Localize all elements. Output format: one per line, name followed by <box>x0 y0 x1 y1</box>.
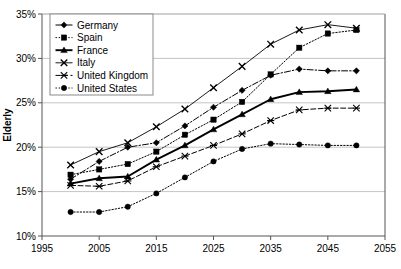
data-point-spain-2035 <box>268 72 273 77</box>
data-point-spain-2045 <box>325 31 330 36</box>
data-point-united-kingdom-2045 <box>324 105 331 111</box>
legend-label-spain: Spain <box>77 32 103 43</box>
data-point-united-states-2000 <box>68 209 73 214</box>
data-point-spain-2000 <box>68 172 73 177</box>
data-point-united-states-2030 <box>239 146 244 151</box>
data-point-united-states-2035 <box>268 141 273 146</box>
data-point-united-kingdom-2030 <box>238 131 245 137</box>
elderly-population-projection-chart: 10%15%20%25%30%35%1995200520152025203520… <box>0 0 401 269</box>
data-point-united-states-2045 <box>325 143 330 148</box>
data-point-italy-2035 <box>267 41 274 48</box>
data-point-united-kingdom-2015 <box>153 164 160 170</box>
data-point-germany-2025 <box>210 104 216 110</box>
data-point-spain-2020 <box>182 132 187 137</box>
data-point-united-kingdom-2040 <box>296 107 303 113</box>
data-point-germany-2045 <box>325 68 331 74</box>
x-tick-label-2025: 2025 <box>202 243 225 254</box>
data-point-spain-2010 <box>125 161 130 166</box>
y-tick-label-30: 30% <box>16 53 36 64</box>
data-point-united-kingdom-2035 <box>267 117 274 123</box>
data-point-united-states-2050 <box>354 143 359 148</box>
x-tick-label-2035: 2035 <box>260 243 283 254</box>
data-point-italy-2020 <box>182 106 189 113</box>
legend-label-france: France <box>77 45 109 56</box>
data-point-spain-2005 <box>96 167 101 172</box>
y-tick-label-35: 35% <box>16 9 36 20</box>
data-point-spain-2025 <box>211 117 216 122</box>
data-point-germany-2020 <box>182 123 188 129</box>
y-tick-label-25: 25% <box>16 97 36 108</box>
legend-label-united-kingdom: United Kingdom <box>77 70 148 81</box>
data-point-united-states-2020 <box>182 175 187 180</box>
data-point-italy-2000 <box>67 162 74 169</box>
chart-canvas: 10%15%20%25%30%35%1995200520152025203520… <box>0 0 401 269</box>
x-tick-label-1995: 1995 <box>31 243 54 254</box>
legend-marker-spain <box>61 35 66 40</box>
x-tick-label-2045: 2045 <box>317 243 340 254</box>
data-point-italy-2005 <box>96 148 103 155</box>
y-tick-label-10: 10% <box>16 231 36 242</box>
data-point-united-kingdom-2020 <box>181 153 188 159</box>
y-tick-label-20: 20% <box>16 142 36 153</box>
data-point-united-states-2040 <box>297 142 302 147</box>
data-point-united-kingdom-2050 <box>353 105 360 111</box>
data-point-united-kingdom-2025 <box>210 142 217 148</box>
legend-label-germany: Germany <box>77 20 118 31</box>
data-point-italy-2030 <box>239 63 246 70</box>
x-tick-label-2005: 2005 <box>88 243 111 254</box>
legend-label-italy: Italy <box>77 57 95 68</box>
data-point-germany-2015 <box>153 140 159 146</box>
data-point-united-states-2015 <box>154 191 159 196</box>
data-point-germany-2050 <box>353 68 359 74</box>
data-point-spain-2030 <box>239 99 244 104</box>
data-point-spain-2015 <box>154 149 159 154</box>
data-point-united-kingdom-2005 <box>96 183 103 189</box>
y-tick-label-15: 15% <box>16 186 36 197</box>
legend-marker-united-states <box>61 85 66 90</box>
legend: GermanySpainFranceItalyUnited KingdomUni… <box>50 14 153 95</box>
y-axis-title: Elderly <box>2 108 13 142</box>
series-france <box>67 86 359 186</box>
legend-label-united-states: United States <box>77 83 137 94</box>
data-point-italy-2015 <box>153 123 160 130</box>
data-point-germany-2005 <box>96 158 102 164</box>
data-point-germany-2030 <box>239 87 245 93</box>
data-point-united-states-2025 <box>211 159 216 164</box>
data-point-united-states-2010 <box>125 204 130 209</box>
data-point-spain-2040 <box>297 45 302 50</box>
data-point-germany-2040 <box>296 66 302 72</box>
data-point-italy-2025 <box>210 84 217 91</box>
series-line-france <box>71 89 357 183</box>
x-tick-label-2015: 2015 <box>145 243 168 254</box>
x-tick-label-2055: 2055 <box>374 243 397 254</box>
data-point-united-states-2005 <box>96 209 101 214</box>
